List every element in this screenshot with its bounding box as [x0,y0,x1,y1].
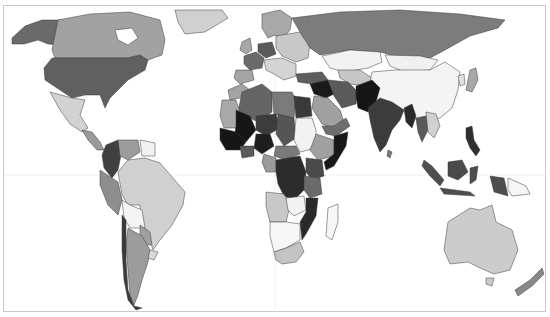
world-map [0,0,550,317]
region-ghana-ivory[interactable] [240,146,254,158]
region-uk[interactable] [240,38,252,54]
region-sulawesi[interactable] [470,166,478,184]
region-madagascar[interactable] [326,204,338,240]
region-zambia[interactable] [286,196,306,216]
region-france[interactable] [244,52,264,70]
region-cameroon-gabon[interactable] [262,154,276,172]
region-tasmania[interactable] [486,278,494,286]
region-papua-new-guinea[interactable] [508,178,530,196]
region-mexico[interactable] [50,92,88,132]
region-guianas[interactable] [140,140,155,156]
region-india[interactable] [368,98,404,152]
region-chad[interactable] [276,114,296,146]
region-sri-lanka[interactable] [387,150,392,158]
region-australia[interactable] [444,205,518,274]
region-thailand[interactable] [416,116,428,142]
region-tanzania[interactable] [304,176,322,198]
region-japan[interactable] [466,68,478,92]
region-greenland[interactable] [175,10,228,34]
region-nigeria[interactable] [254,134,274,154]
region-russia[interactable] [292,10,505,60]
region-spain[interactable] [234,70,254,84]
region-new-zealand[interactable] [515,268,544,296]
region-venezuela[interactable] [118,140,140,160]
region-canada[interactable] [52,12,165,60]
region-central-america[interactable] [82,130,104,150]
region-korea[interactable] [458,74,465,86]
region-egypt[interactable] [294,96,312,118]
region-sumatra[interactable] [422,160,444,186]
region-uruguay[interactable] [148,250,158,260]
region-papua-indonesia[interactable] [490,176,508,196]
region-italy-balkans[interactable] [264,58,296,80]
region-philippines[interactable] [466,126,480,156]
region-java[interactable] [440,188,475,196]
region-malaysia-borneo[interactable] [448,160,468,180]
